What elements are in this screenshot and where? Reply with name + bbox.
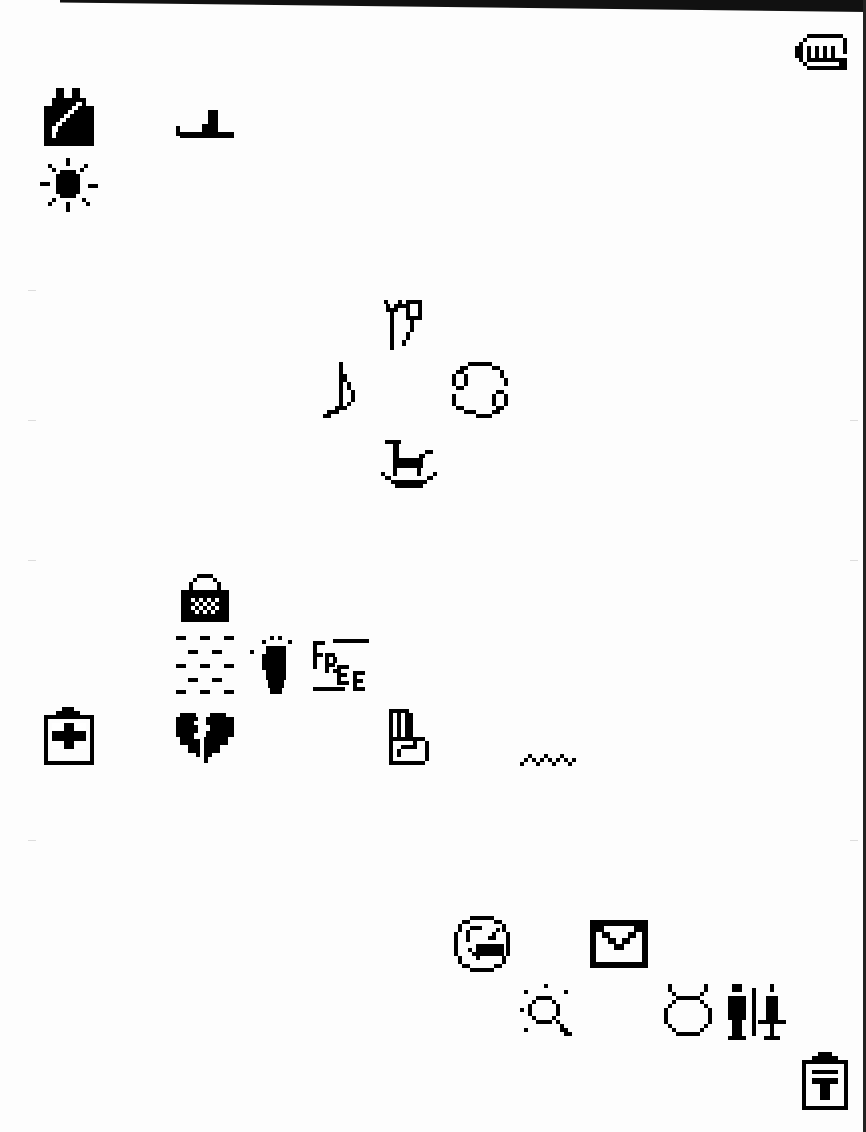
cancer-icon (452, 362, 510, 420)
no-smoking-icon (452, 916, 510, 972)
scan-artifact (850, 420, 858, 421)
scan-top-edge (60, 0, 866, 12)
postbox-icon (802, 1052, 848, 1110)
scan-artifact (850, 560, 858, 561)
medical-clipboard-icon (44, 707, 94, 765)
fist-icon (795, 34, 851, 74)
scan-artifact (28, 420, 36, 421)
taurus-icon (664, 984, 712, 1040)
envelope-icon (590, 920, 648, 968)
scan-artifact (850, 840, 858, 841)
sparkle-magnifier-icon (520, 984, 578, 1040)
broken-heart-icon (176, 713, 234, 765)
sun-icon (40, 158, 98, 214)
zigzag-icon (520, 750, 578, 766)
capricorn-icon (382, 300, 438, 350)
handbag-icon (181, 574, 229, 622)
rocking-horse-icon (381, 440, 439, 490)
vest-icon (44, 88, 94, 146)
scan-artifact (28, 290, 36, 291)
restroom-icon (726, 984, 786, 1040)
peace-hand-icon (389, 709, 435, 765)
scan-artifact (28, 560, 36, 561)
free-icon (313, 637, 369, 695)
footprint-icon (250, 636, 294, 696)
boot-icon (176, 110, 234, 142)
scan-artifact (28, 840, 36, 841)
eighth-note-icon (323, 362, 363, 418)
brick-pattern-icon (176, 636, 234, 696)
